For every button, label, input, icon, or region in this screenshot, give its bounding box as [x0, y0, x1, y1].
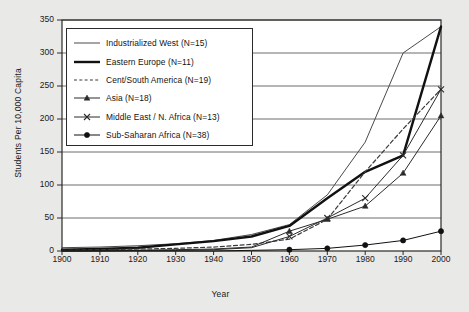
x-tick-label: 1970 — [307, 255, 347, 264]
y-axis-label: Students Per 10,000 Capita — [13, 58, 23, 188]
chart-legend: Industrialized West (N=15)Eastern Europe… — [66, 28, 253, 146]
legend-label: Eastern Europe (N=11) — [106, 57, 194, 67]
x-tick-label: 1900 — [42, 255, 82, 264]
x-tick-label: 1940 — [194, 255, 234, 264]
y-tick-label: 50 — [18, 213, 54, 222]
y-tick-label: 350 — [18, 15, 54, 24]
legend-label: Industrialized West (N=15) — [106, 38, 207, 48]
legend-swatch-icon — [73, 37, 101, 49]
legend-label: Sub-Saharan Africa (N=38) — [106, 130, 209, 140]
y-tick-label: 300 — [18, 48, 54, 57]
x-tick-label: 1930 — [156, 255, 196, 264]
x-tick-label: 1920 — [118, 255, 158, 264]
x-axis-label: Year — [0, 289, 441, 299]
y-tick-label: 100 — [18, 180, 54, 189]
legend-swatch-icon — [73, 129, 101, 141]
x-tick-label: 2000 — [421, 255, 461, 264]
x-tick-label: 1960 — [269, 255, 309, 264]
legend-swatch-icon — [73, 92, 101, 104]
legend-swatch-icon — [73, 56, 101, 68]
legend-item-5[interactable]: Sub-Saharan Africa (N=38) — [73, 126, 246, 144]
x-tick-label: 1990 — [383, 255, 423, 264]
legend-swatch-icon — [73, 74, 101, 86]
legend-item-4[interactable]: Middle East / N. Africa (N=13) — [73, 108, 246, 126]
x-tick-label: 1980 — [345, 255, 385, 264]
x-tick-label: 1910 — [80, 255, 120, 264]
legend-item-3[interactable]: Asia (N=18) — [73, 89, 246, 107]
x-tick-label: 1950 — [232, 255, 272, 264]
legend-swatch-icon — [73, 111, 101, 123]
legend-label: Middle East / N. Africa (N=13) — [106, 112, 220, 122]
legend-label: Cent/South America (N=19) — [106, 75, 211, 85]
y-tick-label: 150 — [18, 147, 54, 156]
legend-item-1[interactable]: Eastern Europe (N=11) — [73, 52, 246, 70]
legend-label: Asia (N=18) — [106, 93, 152, 103]
chart-figure: Students Per 10,000 Capita Year 05010015… — [0, 0, 469, 312]
legend-item-2[interactable]: Cent/South America (N=19) — [73, 71, 246, 89]
y-tick-label: 0 — [18, 246, 54, 255]
y-tick-label: 200 — [18, 114, 54, 123]
y-tick-label: 250 — [18, 81, 54, 90]
legend-item-0[interactable]: Industrialized West (N=15) — [73, 34, 246, 52]
